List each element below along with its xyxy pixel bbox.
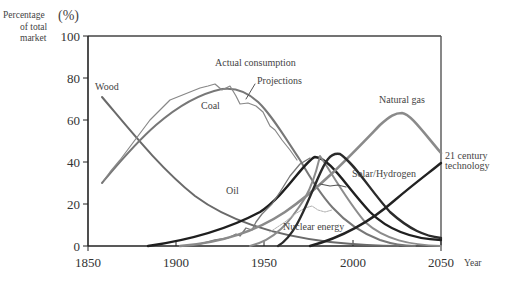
label-actual-consumption: Actual consumption (215, 57, 296, 68)
y-title-unit: (%) (58, 8, 79, 24)
series-solar-actual (320, 184, 346, 187)
y-tick-100: 100 (61, 29, 81, 44)
y-ticks: 0 20 40 60 80 100 (61, 29, 89, 254)
label-natural-gas: Natural gas (379, 94, 425, 105)
series-coal-actual (104, 84, 297, 180)
label-nuclear-energy: Nuclear energy (283, 221, 344, 232)
label-wood: Wood (95, 81, 119, 92)
label-coal: Coal (201, 100, 220, 111)
label-projections: Projections (257, 75, 302, 86)
x-tick-2050: 2050 (428, 255, 454, 270)
x-tick-2000: 2000 (340, 255, 366, 270)
label-solar-hydrogen: Solar/Hydrogen (352, 168, 416, 179)
y-tick-0: 0 (74, 239, 81, 254)
series-lines (102, 84, 441, 246)
y-tick-40: 40 (67, 155, 80, 170)
x-tick-1950: 1950 (251, 255, 277, 270)
label-oil: Oil (226, 185, 239, 196)
y-tick-60: 60 (67, 113, 80, 128)
x-tick-1900: 1900 (163, 255, 189, 270)
energy-market-share-chart: Percentage (%) of total market 0 20 40 6… (0, 0, 511, 283)
y-title-line2: of total (20, 22, 48, 32)
x-axis-title: Year (464, 258, 482, 268)
y-tick-20: 20 (67, 197, 80, 212)
y-title-line3: market (20, 33, 47, 43)
label-21-century-line2: technology (445, 160, 489, 171)
y-tick-80: 80 (67, 71, 80, 86)
y-title-line1: Percentage (3, 10, 45, 20)
x-tick-1850: 1850 (75, 255, 101, 270)
